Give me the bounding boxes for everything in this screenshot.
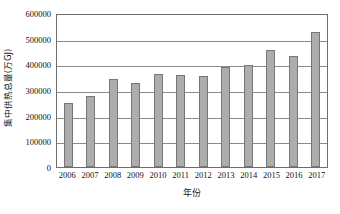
y-axis-tick-label: 300000 (26, 86, 52, 96)
bars-container (57, 15, 327, 167)
x-axis-tick-label: 2016 (283, 170, 306, 184)
y-axis-tick-label: 0 (47, 163, 51, 173)
bar-chart: 集中供热总量(万GJ) 0100000200000300000400000500… (0, 0, 340, 214)
bar[interactable] (131, 83, 140, 167)
x-axis-title: 年份 (56, 186, 328, 199)
y-axis-tick-label: 200000 (26, 112, 52, 122)
bar[interactable] (86, 96, 95, 167)
bar-slot (305, 15, 328, 167)
bar-slot (57, 15, 80, 167)
x-axis-tick-label: 2013 (215, 170, 238, 184)
bar-slot (282, 15, 305, 167)
y-axis-tick-label: 600000 (26, 9, 52, 19)
bar-slot (215, 15, 238, 167)
bar[interactable] (311, 32, 320, 167)
bar[interactable] (221, 67, 230, 167)
x-axis-tick-label: 2017 (305, 170, 328, 184)
y-axis-tick-label: 500000 (26, 35, 52, 45)
bar[interactable] (244, 65, 253, 167)
bar[interactable] (64, 103, 73, 167)
bar-slot (147, 15, 170, 167)
y-axis-tick-label: 100000 (26, 137, 52, 147)
x-axis-tick-labels: 2006200720082009201020112012201320142015… (56, 170, 328, 184)
x-axis-tick-label: 2007 (79, 170, 102, 184)
bar-slot (102, 15, 125, 167)
x-axis-tick-label: 2012 (192, 170, 215, 184)
bar[interactable] (109, 79, 118, 167)
plot-area (56, 14, 328, 168)
bar-slot (125, 15, 148, 167)
bar-slot (237, 15, 260, 167)
bar-slot (170, 15, 193, 167)
bar-slot (80, 15, 103, 167)
y-axis-tick-label: 400000 (26, 60, 52, 70)
bar[interactable] (266, 50, 275, 167)
x-axis-tick-label: 2015 (260, 170, 283, 184)
bar-slot (192, 15, 215, 167)
bar-slot (260, 15, 283, 167)
x-axis-tick-label: 2006 (56, 170, 79, 184)
bar[interactable] (176, 75, 185, 167)
bar[interactable] (154, 74, 163, 167)
x-axis-tick-label: 2010 (147, 170, 170, 184)
y-axis-tick-labels: 0100000200000300000400000500000600000 (12, 0, 54, 214)
x-axis-tick-label: 2008 (101, 170, 124, 184)
x-axis-tick-label: 2009 (124, 170, 147, 184)
x-axis-tick-label: 2014 (237, 170, 260, 184)
bar[interactable] (289, 56, 298, 167)
x-axis-tick-label: 2011 (169, 170, 192, 184)
bar[interactable] (199, 76, 208, 167)
